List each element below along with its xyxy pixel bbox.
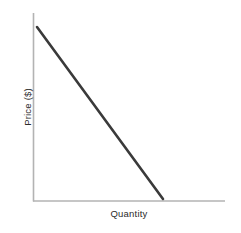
y-axis-label: Price ($) [22, 88, 33, 126]
x-axis-label: Quantity [0, 208, 241, 219]
demand-curve-line [37, 27, 163, 199]
demand-curve-chart: Quantity Price ($) [0, 0, 241, 233]
plot-area [0, 0, 241, 233]
